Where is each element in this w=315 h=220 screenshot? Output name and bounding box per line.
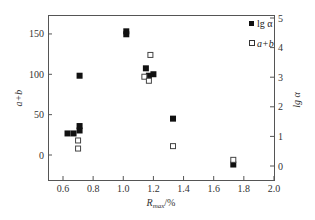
y-right-axis-title: lg α — [291, 91, 302, 107]
x-tick-label: 1.8 — [238, 183, 251, 194]
open-square-point — [76, 138, 81, 143]
filled-square-point — [123, 28, 129, 34]
y-left-axis-title: a+b — [13, 90, 24, 107]
y-right-tick-label: 2 — [278, 101, 283, 112]
y-right-tick-label: 3 — [278, 72, 283, 83]
open-square-point — [231, 157, 236, 162]
scatter-chart: 0.60.81.01.21.41.61.82.0 050100150 01234… — [0, 0, 315, 220]
y-left-tick-label: 100 — [29, 69, 44, 80]
y-right-tick-label: 5 — [278, 13, 283, 24]
y-left-tick-label: 50 — [34, 109, 44, 120]
filled-square-point — [170, 116, 176, 122]
y-right-tick-label: 0 — [278, 161, 283, 172]
x-tick-label: 1.4 — [177, 183, 190, 194]
legend: lg α a+b — [249, 18, 274, 49]
plot-frame — [49, 16, 275, 181]
open-square-point — [146, 78, 151, 83]
legend-label-lg-alpha: lg α — [257, 18, 273, 29]
legend-label-a-plus-b: a+b — [257, 38, 274, 49]
legend-open-square-icon — [250, 41, 255, 46]
data-points — [65, 28, 237, 167]
filled-square-point — [65, 130, 71, 136]
x-tick-label: 2.0 — [268, 183, 281, 194]
filled-square-point — [77, 123, 83, 129]
y-left-tick-label: 150 — [29, 28, 44, 39]
x-axis-title: Rmax/% — [146, 197, 176, 210]
open-square-point — [76, 146, 81, 151]
y-right-tick-label: 4 — [278, 42, 283, 53]
x-tick-label: 0.8 — [87, 183, 100, 194]
x-tick-label: 1.0 — [117, 183, 130, 194]
filled-square-point — [77, 73, 83, 79]
y-right-tick-label: 1 — [278, 131, 283, 142]
x-tick-label: 1.6 — [207, 183, 220, 194]
y-left-tick-label: 0 — [39, 150, 44, 161]
plot-border — [49, 16, 275, 181]
filled-square-point — [150, 71, 156, 77]
legend-filled-square-icon — [249, 21, 254, 26]
right-y-axis-ticks: 012345 — [270, 13, 283, 172]
x-tick-label: 1.2 — [147, 183, 160, 194]
open-square-point — [171, 144, 176, 149]
x-tick-label: 0.6 — [57, 183, 70, 194]
filled-square-point — [71, 130, 77, 136]
filled-square-point — [143, 65, 149, 71]
x-axis-ticks: 0.60.81.01.21.41.61.82.0 — [57, 176, 280, 194]
open-square-point — [148, 52, 153, 57]
